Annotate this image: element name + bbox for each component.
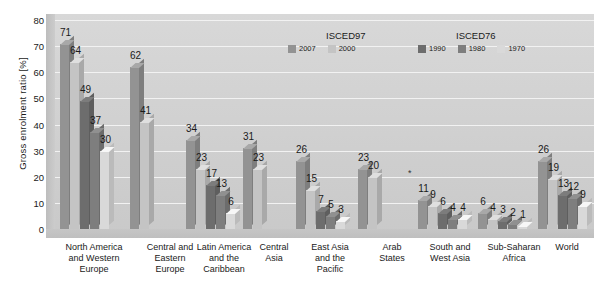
bar-face [196, 169, 205, 229]
bar[interactable]: 3 [498, 221, 507, 229]
bar[interactable]: 4 [488, 219, 497, 229]
x-axis-label: East Asiaand thePacific [292, 242, 368, 276]
bar-group: 3123 [243, 148, 263, 229]
legend-item[interactable]: 1970 [497, 44, 525, 53]
bar-face [568, 198, 577, 229]
bar-face [140, 122, 149, 229]
bar-face [306, 190, 315, 229]
bar-group: 64321 [478, 213, 528, 229]
bar[interactable]: 6 [226, 213, 235, 229]
bar[interactable]: 9 [428, 206, 437, 230]
bar[interactable]: 26 [296, 161, 305, 229]
legend-row: 199019801970 [418, 44, 534, 53]
bar-group: 342317136 [186, 140, 236, 229]
bar-group: 261913129 [538, 161, 588, 229]
chart-root: Gross enrolment ratio [%] 01020304050607… [0, 0, 602, 286]
legend-item[interactable]: 1980 [458, 44, 486, 53]
bar-value-label: 62 [130, 50, 141, 61]
bar[interactable]: 17 [206, 185, 215, 229]
x-axis-label-line: and Western [46, 253, 142, 264]
bar-value-label: 3 [500, 204, 506, 215]
bar-value-label: 23 [253, 152, 264, 163]
bar-value-label: 11 [418, 183, 428, 194]
bar[interactable]: 13 [558, 195, 567, 229]
x-axis-label-line: Africa [474, 253, 554, 264]
y-tick-40: 40 [33, 119, 44, 130]
bar-value-label: 6 [440, 196, 446, 207]
y-tick-0: 0 [39, 224, 44, 235]
bar-face [336, 221, 345, 229]
bar[interactable]: 62 [130, 67, 139, 229]
bar[interactable]: 6 [438, 213, 447, 229]
bar[interactable]: 37 [90, 132, 99, 229]
bar-value-label: 4 [460, 202, 466, 213]
bar[interactable]: 13 [216, 195, 225, 229]
bar[interactable]: 71 [60, 44, 69, 229]
x-axis-label-line: East Asia [292, 242, 368, 253]
bar-value-label: 30 [100, 134, 111, 145]
y-tick-70: 70 [33, 41, 44, 52]
bar-value-label: 23 [196, 152, 207, 163]
bar-face [498, 221, 507, 229]
bar-face [558, 195, 567, 229]
legend-item[interactable]: 1990 [418, 44, 446, 53]
bar-value-label: 71 [60, 27, 71, 38]
bar[interactable]: 64 [70, 62, 79, 229]
legend-label: 1980 [469, 44, 486, 53]
legend-label: 1990 [429, 44, 446, 53]
bar-value-label: 4 [490, 202, 496, 213]
legend-swatch [497, 45, 505, 53]
bar-value-label: 37 [90, 115, 101, 126]
bar-value-label: 41 [140, 105, 151, 116]
bar-face [130, 67, 139, 229]
x-axis-labels: North Americaand WesternEuropeCentral an… [46, 242, 594, 286]
bar[interactable]: 23 [358, 169, 367, 229]
bar[interactable]: 9 [578, 206, 587, 230]
legend-item[interactable]: 2007 [288, 44, 316, 53]
bar[interactable]: 49 [80, 101, 89, 229]
bar[interactable]: 3 [336, 221, 345, 229]
bar[interactable]: 5 [326, 216, 335, 229]
bar-value-label: 49 [80, 84, 91, 95]
bar-value-label: 17 [206, 168, 217, 179]
bar[interactable]: 7 [316, 211, 325, 229]
bar-value-label: 5 [328, 199, 334, 210]
bar[interactable]: 4 [458, 219, 467, 229]
bar[interactable]: 41 [140, 122, 149, 229]
bar[interactable]: 12 [568, 198, 577, 229]
bar-face [226, 213, 235, 229]
bar[interactable]: 1 [518, 226, 527, 229]
bar-group: 2615753 [296, 161, 346, 229]
y-tick-10: 10 [33, 197, 44, 208]
bar-face [70, 62, 79, 229]
bar[interactable]: 20 [368, 177, 377, 229]
bar-face [206, 185, 215, 229]
bar[interactable]: 11 [418, 200, 427, 229]
bar[interactable]: 34 [186, 140, 195, 229]
bar[interactable]: 6 [478, 213, 487, 229]
bar[interactable]: 26 [538, 161, 547, 229]
bar-face [358, 169, 367, 229]
bar-face [90, 132, 99, 229]
bar[interactable]: 4 [448, 219, 457, 229]
legend-label: 1970 [508, 44, 525, 53]
y-tick-80: 80 [33, 15, 44, 26]
bar[interactable]: 15 [306, 190, 315, 229]
bar[interactable]: 23 [253, 169, 262, 229]
bar[interactable]: 19 [548, 179, 557, 229]
legend-swatch [458, 45, 466, 53]
bar[interactable]: 23 [196, 169, 205, 229]
bar-face [478, 213, 487, 229]
bar[interactable]: 30 [100, 151, 109, 229]
bar[interactable]: 2 [508, 224, 517, 229]
bar-group: 119644 [418, 200, 468, 229]
bar-value-label: 1 [520, 209, 526, 220]
bar-face [418, 200, 427, 229]
legend-swatch [288, 45, 296, 53]
bar-group: 6241 [130, 67, 150, 229]
bar-value-label: 6 [228, 196, 234, 207]
bar-face [438, 213, 447, 229]
bar[interactable]: 31 [243, 148, 252, 229]
legend-swatch [328, 45, 336, 53]
legend-item[interactable]: 2000 [328, 44, 356, 53]
